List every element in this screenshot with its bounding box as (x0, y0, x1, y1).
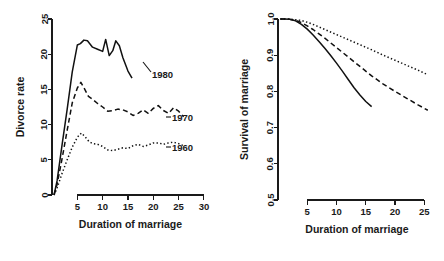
left-panel-divorce-rate: 051015202551015202530Duration of marriag… (0, 0, 222, 261)
series-curve-1980 (280, 19, 371, 107)
series-curve-1980 (54, 39, 132, 195)
series-label-1960: 1960 (172, 142, 193, 153)
x-tick-label: 10 (97, 201, 108, 212)
y-tick-label: 0.8 (265, 85, 276, 98)
series-curve-1960 (54, 133, 184, 195)
x-axis-title: Duration of marriage (79, 218, 182, 230)
right-panel-svg: 0.50.60.70.80.91.0510152025Duration of m… (222, 0, 444, 261)
right-panel-survival: 0.50.60.70.80.91.0510152025Duration of m… (222, 0, 444, 261)
series-label-1980: 1980 (152, 69, 173, 80)
x-tick-label: 5 (75, 201, 81, 212)
two-panel-figure: 051015202551015202530Duration of marriag… (0, 0, 444, 261)
x-tick-label: 20 (390, 206, 401, 217)
series-curve-1970 (54, 82, 184, 195)
y-tick-label: 15 (39, 83, 50, 94)
left-panel-svg: 051015202551015202530Duration of marriag… (0, 0, 222, 261)
x-tick-label: 5 (305, 206, 311, 217)
x-axis-title: Duration of marriage (305, 223, 408, 235)
x-tick-label: 15 (123, 201, 134, 212)
x-tick-label: 25 (173, 201, 184, 212)
y-tick-label: 0.7 (265, 121, 276, 134)
x-tick-label: 10 (331, 206, 342, 217)
y-tick-label: 0.6 (265, 157, 276, 170)
series-label-leader (143, 62, 151, 72)
y-tick-label: 0.9 (265, 49, 276, 62)
y-tick-label: 1.0 (265, 12, 276, 25)
y-tick-label: 0.5 (265, 193, 276, 207)
y-tick-label: 5 (39, 156, 50, 162)
y-tick-label: 20 (39, 49, 50, 60)
x-tick-label: 25 (419, 206, 430, 217)
y-tick-label: 25 (39, 13, 50, 24)
x-tick-label: 15 (360, 206, 371, 217)
x-tick-label: 30 (199, 201, 210, 212)
y-tick-label: 10 (39, 119, 50, 130)
series-curve-1960 (280, 19, 427, 75)
x-tick-label: 20 (148, 201, 159, 212)
y-axis-title: Divorce rate (14, 76, 26, 137)
y-tick-label: 0 (39, 192, 50, 197)
series-label-1970: 1970 (172, 112, 193, 123)
y-axis-title: Survival of marriage (238, 59, 250, 160)
